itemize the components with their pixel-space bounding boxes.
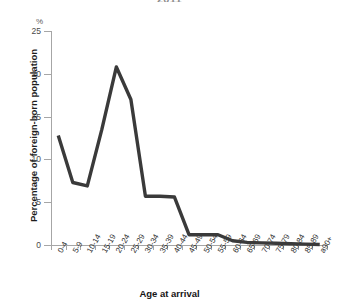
x-tick-label: 35-39 [158, 233, 176, 255]
x-tick-label: 25-29 [129, 233, 147, 255]
x-tick-label: 0-4 [56, 240, 69, 254]
y-tick-label: 5 [18, 198, 41, 207]
y-tick-label: 20 [18, 70, 41, 79]
y-tick-label: 10 [18, 155, 41, 164]
x-tick-label: 5-9 [71, 240, 84, 254]
y-axis-unit-label: % [36, 17, 43, 26]
y-tick-label: 25 [18, 27, 41, 36]
y-tick-label: 0 [18, 241, 41, 250]
x-tick-label: 15-19 [100, 233, 118, 255]
x-tick [51, 245, 52, 250]
y-tick-label: 15 [18, 113, 41, 122]
chart-title: 2011 [0, 0, 339, 2]
chart-container: 2011 % Percentage of foreign-born popula… [0, 0, 339, 308]
y-tick [44, 74, 51, 75]
x-tick-label: 45-49 [187, 233, 205, 255]
y-axis-line [51, 31, 52, 246]
y-tick [44, 202, 51, 203]
y-tick [44, 117, 51, 118]
x-tick-label: 10-14 [85, 233, 103, 255]
y-tick [44, 245, 51, 246]
x-axis-title: Age at arrival [0, 288, 339, 299]
y-tick [44, 31, 51, 32]
y-tick [44, 159, 51, 160]
